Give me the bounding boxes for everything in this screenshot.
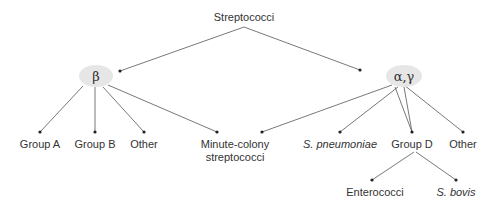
leaf-group-d: Group D [391, 138, 433, 151]
leaf-minute-colony-line1: Minute-colony [201, 138, 269, 151]
dot-alpha-arrow [358, 68, 361, 71]
leaf-s-pneumoniae: S. pneumoniae [303, 138, 377, 151]
tree-connectors [0, 0, 492, 204]
leaf-enterococci: Enterococci [346, 186, 403, 199]
leaf-s-bovis: S. bovis [436, 186, 475, 199]
leaf-minute-colony: Minute-colony streptococci [201, 138, 269, 164]
leaf-alpha-other: Other [449, 138, 477, 151]
beta-label: β [92, 69, 100, 84]
alpha-gamma-label: α,γ [394, 69, 415, 84]
dot-beta-arrow [118, 69, 121, 72]
leaf-group-b: Group B [75, 138, 116, 151]
root-label: Streptococci [214, 11, 275, 24]
leaf-minute-colony-line2: streptococci [201, 151, 269, 164]
leaf-beta-other: Other [130, 138, 158, 151]
leaf-group-a: Group A [20, 138, 60, 151]
